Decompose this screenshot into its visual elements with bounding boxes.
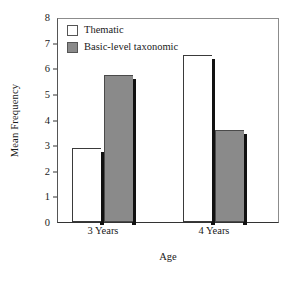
- legend-swatch-taxonomic: [67, 42, 78, 53]
- x-axis-title: Age: [57, 252, 279, 263]
- bar-chart: Mean Frequency 012345678 Thematic Basic-…: [0, 0, 302, 288]
- legend-label-thematic: Thematic: [84, 25, 124, 36]
- legend-swatch-thematic: [67, 25, 78, 36]
- bar-3-years-thematic: [72, 148, 101, 222]
- y-axis-tick-label: 0: [36, 218, 50, 229]
- chart-legend: Thematic Basic-level taxonomic: [67, 25, 178, 53]
- y-axis-title: Mean Frequency: [0, 0, 30, 240]
- legend-item: Basic-level taxonomic: [67, 42, 178, 53]
- y-axis-tick-label: 7: [36, 38, 50, 49]
- x-axis-tick-label: 3 Years: [88, 226, 119, 237]
- y-axis-tick-label: 5: [36, 90, 50, 101]
- bar-3-years-basic-level-taxonomic: [104, 75, 133, 222]
- legend-item: Thematic: [67, 25, 178, 36]
- x-axis-tick-labels: 3 Years4 Years: [57, 226, 279, 242]
- y-axis-title-text: Mean Frequency: [10, 83, 21, 157]
- bar-4-years-basic-level-taxonomic: [215, 130, 244, 222]
- y-axis-tick-label: 8: [36, 13, 50, 24]
- plot-frame: Thematic Basic-level taxonomic: [57, 18, 279, 223]
- y-axis-tick-label: 3: [36, 141, 50, 152]
- y-axis-tick-labels: 012345678: [28, 0, 50, 288]
- y-axis-tick-label: 1: [36, 192, 50, 203]
- bar-4-years-thematic: [183, 55, 212, 222]
- y-axis-tick-label: 6: [36, 64, 50, 75]
- y-axis-tick-label: 4: [36, 115, 50, 126]
- x-axis-tick-label: 4 Years: [199, 226, 230, 237]
- legend-label-taxonomic: Basic-level taxonomic: [84, 42, 178, 53]
- y-axis-tick-label: 2: [36, 167, 50, 178]
